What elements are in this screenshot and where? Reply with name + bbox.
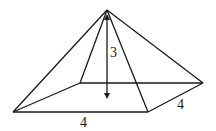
height-label: 3: [110, 45, 117, 60]
base-left-edge: [13, 83, 80, 112]
pyramid-diagram: 3 4 4: [0, 0, 216, 131]
base-front-label: 4: [80, 115, 87, 130]
base-side-label: 4: [177, 97, 184, 112]
lateral-edge-front-left: [13, 10, 107, 112]
base-right-edge: [148, 83, 203, 112]
lateral-edge-back-left: [80, 10, 107, 83]
